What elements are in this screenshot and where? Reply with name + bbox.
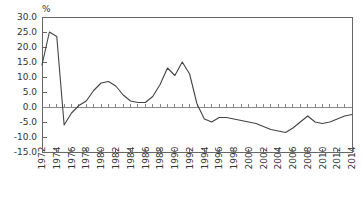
y-axis-tick-label: 10.0 (17, 72, 37, 82)
y-axis-unit-label: % (42, 4, 51, 14)
plot-area-frame (43, 18, 353, 153)
y-axis-tick-label: 0.0 (23, 102, 38, 112)
y-axis-tick-label: 25.0 (17, 27, 37, 37)
y-axis-tick-label: 30.0 (17, 12, 37, 22)
x-axis-tick-labels: 1972197419761978198019821984198619881990… (37, 146, 357, 169)
y-axis-tick-marks (43, 17, 47, 152)
y-axis-tick-label: 5.0 (23, 87, 38, 97)
y-axis-tick-label: -15.0 (14, 147, 38, 157)
y-axis-tick-label: -10.0 (14, 132, 38, 142)
y-axis-tick-label: 20.0 (17, 42, 37, 52)
chart-container: % 30.025.020.015.010.05.00.0-5.0-10.0-15… (0, 0, 363, 203)
line-chart: % 30.025.020.015.010.05.00.0-5.0-10.0-15… (0, 0, 363, 203)
y-axis-tick-label: -5.0 (19, 117, 37, 127)
y-axis-tick-label: 15.0 (17, 57, 37, 67)
y-axis-tick-labels: 30.025.020.015.010.05.00.0-5.0-10.0-15.0 (14, 12, 38, 157)
data-series-line (42, 32, 352, 133)
y-axis-unit-group: % (42, 4, 51, 14)
